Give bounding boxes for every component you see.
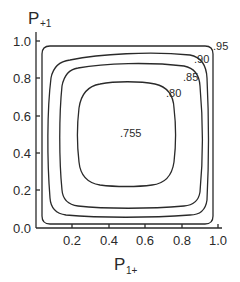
y-axis-title-sub: +1 (40, 18, 52, 29)
y-tick-label: 0.4 (13, 146, 31, 161)
x-axis-title-main: P (114, 255, 125, 274)
contour-label-080: .80 (166, 87, 181, 99)
x-tick-label: 0.4 (100, 233, 118, 248)
y-tick-label: 0.2 (13, 183, 31, 198)
x-axis-title-sub: 1+ (126, 265, 138, 276)
x-tick-label: 0.8 (173, 233, 191, 248)
y-tick-label: 0.6 (13, 109, 31, 124)
x-tick-label: 0.6 (136, 233, 154, 248)
contour-label-095: .95 (213, 40, 228, 52)
contour-label-090: .90 (194, 53, 209, 65)
y-tick-label: 0.0 (13, 221, 31, 236)
x-tick-label: 1.0 (209, 233, 227, 248)
x-axis-title: P 1+ (114, 255, 138, 276)
y-tick-label: 0.8 (13, 71, 31, 86)
contour-labels: .95 .90 .85 .80 .755 (120, 40, 228, 139)
contour-chart: 1.0 0.8 0.6 0.4 0.2 0.0 0.2 0.4 0.6 0.8 … (0, 0, 240, 282)
y-axis-title-main: P (28, 9, 39, 28)
minimum-label: .755 (120, 127, 141, 139)
x-tick-label: 0.2 (63, 233, 81, 248)
contour-label-085: .85 (183, 71, 198, 83)
y-tick-label: 1.0 (13, 34, 31, 49)
y-axis-title: P +1 (28, 9, 52, 29)
